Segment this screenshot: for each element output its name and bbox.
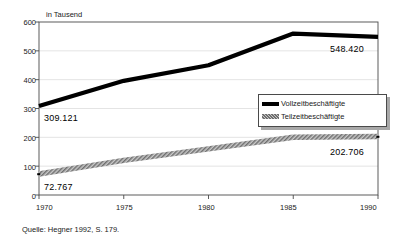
data-label-teilzeit-end: 202.706 <box>330 147 364 157</box>
legend-label-teilzeitbeschaeftigte: Teilzeitbeschäftigte <box>281 112 344 121</box>
data-label-teilzeit-start: 72.767 <box>44 182 73 192</box>
legend-item-teilzeitbeschaeftigte[interactable]: Teilzeitbeschäftigte <box>262 112 344 121</box>
legend-box: Vollzeitbeschäftigte Teilzeitbeschäftigt… <box>258 94 387 127</box>
legend-swatch-hatched-line-icon <box>262 114 279 119</box>
legend-swatch-solid-line-icon <box>262 102 279 106</box>
x-tick-marks <box>39 195 378 199</box>
chart-figure: in Tausend 600 500 400 300 200 100 0 197… <box>0 0 416 247</box>
series-endpoint-markers <box>37 136 379 175</box>
data-label-vollzeit-end: 548.420 <box>330 44 364 54</box>
legend-item-vollzeitbeschaeftigte[interactable]: Vollzeitbeschäftigte <box>262 99 345 108</box>
source-caption: Quelle: Hegner 1992, S. 179. <box>22 225 119 234</box>
series-line-teilzeitbeschaeftigte <box>39 137 378 174</box>
data-label-vollzeit-start: 309.121 <box>44 113 78 123</box>
y-tick-marks <box>35 22 39 195</box>
legend-label-vollzeitbeschaeftigte: Vollzeitbeschäftigte <box>281 99 345 108</box>
